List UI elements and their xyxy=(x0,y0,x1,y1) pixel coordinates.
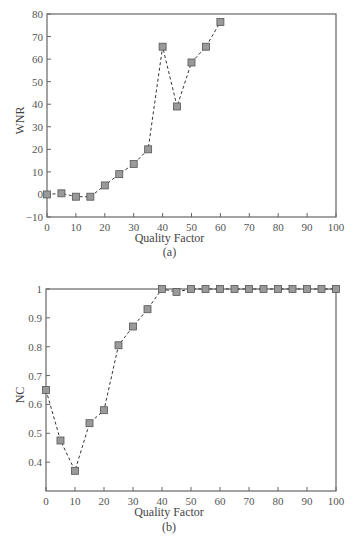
x-tick-label: 60 xyxy=(215,495,227,507)
y-tick-label: 50 xyxy=(32,76,44,88)
data-point-marker xyxy=(101,182,108,189)
x-axis-ticks: 0102030405060708090100 xyxy=(43,487,345,507)
x-tick-label: 100 xyxy=(328,495,345,507)
data-point-marker xyxy=(173,288,180,295)
data-point-marker xyxy=(159,43,166,50)
x-tick-label: 70 xyxy=(244,495,256,507)
data-point-marker xyxy=(72,193,79,200)
y-tick-label: −10 xyxy=(26,211,44,223)
y-tick-label: 0.7 xyxy=(28,370,42,382)
data-point-marker xyxy=(159,286,166,293)
figure-caption: (a) xyxy=(163,245,176,259)
data-point-marker xyxy=(86,420,93,427)
chart-wnr-vs-quality-factor: 0102030405060708090100−10010203040506070… xyxy=(13,8,345,259)
series-line xyxy=(46,289,336,471)
figure-caption: (b) xyxy=(162,520,176,534)
data-point-marker xyxy=(145,146,152,153)
x-tick-label: 100 xyxy=(328,221,345,233)
data-point-marker xyxy=(304,286,311,293)
y-tick-label: 20 xyxy=(32,143,44,155)
data-point-marker xyxy=(144,306,151,313)
y-tick-label: 70 xyxy=(32,31,44,43)
x-tick-label: 10 xyxy=(70,495,82,507)
y-tick-label: 0.4 xyxy=(28,456,42,468)
y-tick-label: 0 xyxy=(38,188,44,200)
data-series xyxy=(44,18,224,200)
figure: 0102030405060708090100−10010203040506070… xyxy=(0,0,360,558)
data-point-marker xyxy=(217,286,224,293)
y-axis-ticks: 0.40.50.60.70.80.91 xyxy=(28,283,50,468)
data-point-marker xyxy=(217,18,224,25)
data-point-marker xyxy=(87,193,94,200)
y-tick-label: 0.8 xyxy=(28,341,42,353)
y-axis-label: WNR xyxy=(13,107,27,135)
x-tick-label: 80 xyxy=(273,221,285,233)
x-tick-label: 90 xyxy=(302,221,314,233)
x-axis-ticks: 0102030405060708090100 xyxy=(44,213,345,233)
series-line xyxy=(47,22,220,197)
data-point-marker xyxy=(260,286,267,293)
x-tick-label: 70 xyxy=(244,221,256,233)
data-point-marker xyxy=(202,43,209,50)
data-point-marker xyxy=(130,160,137,167)
x-tick-label: 90 xyxy=(302,495,314,507)
x-tick-label: 0 xyxy=(43,495,49,507)
data-point-marker xyxy=(130,323,137,330)
data-point-marker xyxy=(318,286,325,293)
y-tick-label: 1 xyxy=(37,283,43,295)
data-point-marker xyxy=(246,286,253,293)
x-tick-label: 20 xyxy=(99,221,111,233)
chart-nc-vs-quality-factor: 01020304050607080901000.40.50.60.70.80.9… xyxy=(13,283,345,534)
data-point-marker xyxy=(231,286,238,293)
y-tick-label: 40 xyxy=(32,98,44,110)
data-point-marker xyxy=(44,191,51,198)
y-tick-label: 30 xyxy=(32,121,44,133)
data-point-marker xyxy=(101,407,108,414)
x-tick-label: 20 xyxy=(99,495,111,507)
y-tick-label: 0.6 xyxy=(28,398,42,410)
x-tick-label: 10 xyxy=(70,221,82,233)
x-tick-label: 80 xyxy=(273,495,285,507)
x-axis-label: Quality Factor xyxy=(135,231,205,245)
data-point-marker xyxy=(115,342,122,349)
data-point-marker xyxy=(289,286,296,293)
data-point-marker xyxy=(275,286,282,293)
data-point-marker xyxy=(116,171,123,178)
data-point-marker xyxy=(188,59,195,66)
plot-frame xyxy=(47,14,336,217)
data-point-marker xyxy=(72,467,79,474)
data-point-marker xyxy=(333,286,340,293)
data-point-marker xyxy=(174,103,181,110)
y-tick-label: 80 xyxy=(32,8,44,20)
x-tick-label: 60 xyxy=(215,221,227,233)
y-tick-label: 0.9 xyxy=(28,312,42,324)
data-point-marker xyxy=(57,437,64,444)
y-tick-label: 10 xyxy=(32,166,44,178)
y-tick-label: 0.5 xyxy=(28,427,42,439)
data-point-marker xyxy=(43,387,50,394)
data-series xyxy=(43,286,340,475)
data-point-marker xyxy=(188,286,195,293)
plot-frame xyxy=(46,289,336,491)
data-point-marker xyxy=(58,190,65,197)
x-tick-label: 0 xyxy=(44,221,50,233)
data-point-marker xyxy=(202,286,209,293)
y-tick-label: 60 xyxy=(32,53,44,65)
x-axis-label: Quality Factor xyxy=(134,505,204,519)
y-axis-label: NC xyxy=(13,387,27,404)
